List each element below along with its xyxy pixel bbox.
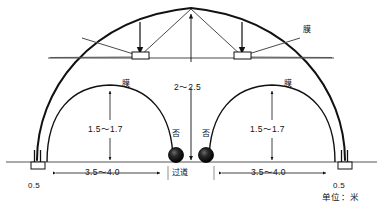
aisle-label: 过道 (172, 169, 189, 177)
post-right-footing (338, 162, 352, 169)
greenhouse-cross-section-diagram: 膜 2～2.5 膜 膜 1.5～1.7 1.5～1.7 否 否 3.5～4.0 … (0, 0, 383, 203)
inner-height-right-label: 1.5～1.7 (250, 125, 285, 134)
inner-height-left-label: 1.5～1.7 (88, 125, 123, 134)
truss-connector-right (234, 52, 251, 59)
post-left-label: 0.5 (28, 182, 40, 190)
truss-chord-right (242, 57, 332, 58)
sphere-left-label: 否 (172, 130, 180, 138)
sphere-right-label: 否 (202, 130, 210, 138)
truss-connector-left (132, 52, 149, 59)
inner-film-left-label: 膜 (122, 80, 130, 88)
center-height-label: 2～2.5 (174, 83, 201, 92)
post-left-footing (31, 162, 45, 169)
diagram-canvas (0, 0, 383, 203)
width-right-label: 3.5～4.0 (251, 168, 286, 177)
truss-chord-left (50, 57, 140, 58)
unit-note: 单位：米 (322, 193, 359, 202)
width-left-label: 3.5～4.0 (85, 168, 120, 177)
inner-film-right-label: 膜 (284, 80, 292, 88)
plant-ball-left (169, 148, 184, 163)
post-right-label: 0.5 (333, 182, 345, 190)
plant-ball-right (199, 148, 214, 163)
outer-film-label: 膜 (303, 26, 311, 34)
